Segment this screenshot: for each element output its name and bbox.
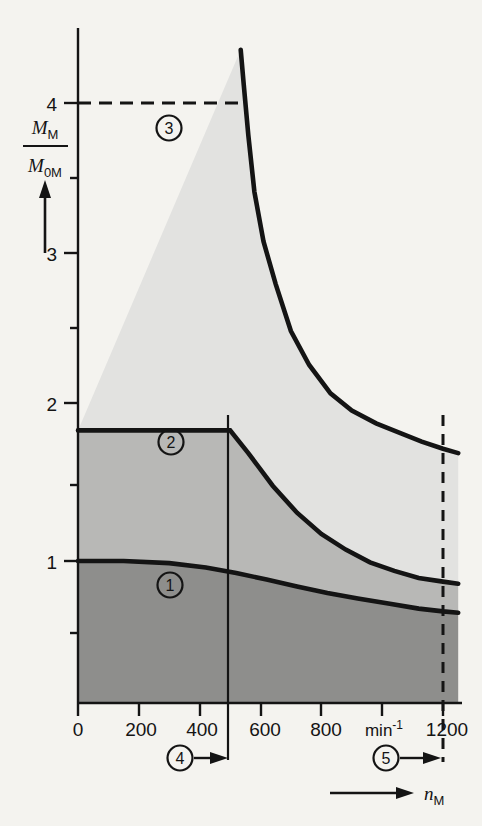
y-title-num-sub: M bbox=[47, 127, 58, 142]
x-tick-label-1200: 1200 bbox=[426, 719, 468, 740]
x-title-sub: M bbox=[434, 793, 445, 808]
callout-marker-5: 5 bbox=[374, 746, 442, 771]
callout-region-1-label: 1 bbox=[166, 577, 175, 594]
x-axis-title: nM bbox=[330, 783, 444, 808]
x-unit-exponent: -1 bbox=[392, 718, 403, 732]
y-axis-title: MM M0M bbox=[23, 117, 68, 253]
x-axis-ticks bbox=[78, 703, 443, 716]
callout-region-3: 3 bbox=[157, 116, 182, 141]
callout-marker-5-arrowhead bbox=[423, 752, 441, 764]
y-axis-title-numerator: MM bbox=[31, 117, 59, 142]
callout-marker-4-label: 4 bbox=[176, 750, 185, 767]
callout-marker-4: 4 bbox=[168, 746, 229, 771]
x-unit-base: min bbox=[365, 721, 392, 740]
y-tick-label-2: 2 bbox=[46, 394, 57, 415]
torque-speed-chart: 4 3 2 1 0 200 400 600 800 1200 min-1 MM … bbox=[0, 0, 482, 826]
x-axis-title-text: nM bbox=[424, 783, 444, 808]
x-tick-label-200: 200 bbox=[125, 719, 157, 740]
x-tick-label-400: 400 bbox=[186, 719, 218, 740]
x-tick-label-800: 800 bbox=[310, 719, 342, 740]
x-tick-labels: 0 200 400 600 800 1200 min-1 bbox=[73, 718, 468, 740]
y-axis-arrow-icon bbox=[39, 180, 51, 253]
chart-canvas: 4 3 2 1 0 200 400 600 800 1200 min-1 MM … bbox=[0, 0, 482, 826]
y-tick-label-1: 1 bbox=[46, 552, 57, 573]
y-title-den-main: M bbox=[27, 155, 45, 176]
callout-marker-5-label: 5 bbox=[382, 750, 391, 767]
x-tick-label-600: 600 bbox=[249, 719, 281, 740]
y-tick-label-4: 4 bbox=[46, 94, 57, 115]
callout-region-3-label: 3 bbox=[165, 120, 174, 137]
x-title-main: n bbox=[424, 783, 434, 804]
y-title-den-sub: 0M bbox=[44, 165, 62, 180]
y-title-num-main: M bbox=[31, 117, 49, 138]
callout-marker-4-arrowhead bbox=[210, 752, 228, 764]
y-axis-title-denominator: M0M bbox=[27, 155, 62, 180]
x-axis-arrow-icon bbox=[330, 787, 414, 799]
y-axis-ticks bbox=[64, 103, 78, 633]
x-axis-unit-label: min-1 bbox=[365, 718, 403, 740]
x-tick-label-0: 0 bbox=[73, 719, 84, 740]
callout-region-2-label: 2 bbox=[167, 434, 176, 451]
y-tick-label-3: 3 bbox=[46, 244, 57, 265]
